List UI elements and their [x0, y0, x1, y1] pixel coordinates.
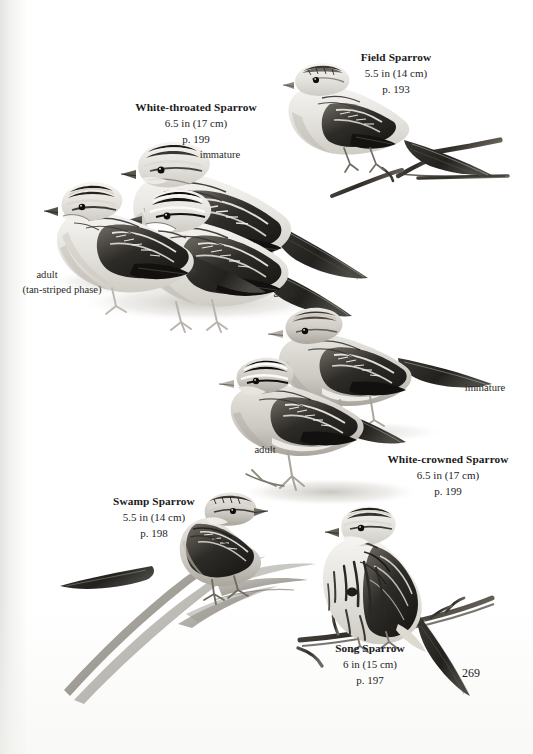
species-page-swamp-sparrow: p. 198 — [89, 526, 219, 542]
annotation-tan-striped-phase: (tan-striped phase) — [0, 283, 124, 297]
annotation-adult-white-throated: adult — [258, 287, 310, 301]
species-page-field-sparrow: p. 193 — [316, 82, 476, 98]
species-page-white-crowned-sparrow: p. 199 — [364, 484, 532, 500]
species-name-white-crowned-sparrow: White-crowned Sparrow — [364, 452, 532, 467]
species-name-white-throated-sparrow: White-throated Sparrow — [86, 100, 306, 115]
annotation-adult-white-crowned: adult — [239, 443, 291, 457]
annotation-immature-white-crowned: immature — [448, 381, 522, 395]
species-name-field-sparrow: Field Sparrow — [316, 50, 476, 65]
annotation-adult-tan-striped: adult — [18, 268, 76, 282]
species-page-white-throated-sparrow: p. 199 — [86, 132, 306, 148]
caption-field-sparrow: Field Sparrow 5.5 in (14 cm) p. 193 — [316, 50, 476, 98]
species-size-field-sparrow: 5.5 in (14 cm) — [316, 65, 476, 82]
annotation-immature-white-throated: immature — [185, 148, 255, 162]
species-name-song-sparrow: Song Sparrow — [305, 641, 435, 656]
species-size-song-sparrow: 6 in (15 cm) — [305, 656, 435, 673]
field-guide-page: Field Sparrow 5.5 in (14 cm) p. 193 Whit… — [0, 0, 533, 754]
species-size-white-throated-sparrow: 6.5 in (17 cm) — [86, 115, 306, 132]
species-size-swamp-sparrow: 5.5 in (14 cm) — [89, 509, 219, 526]
caption-white-crowned-sparrow: White-crowned Sparrow 6.5 in (17 cm) p. … — [364, 452, 532, 500]
caption-white-throated-sparrow: White-throated Sparrow 6.5 in (17 cm) p.… — [86, 100, 306, 148]
caption-song-sparrow: Song Sparrow 6 in (15 cm) p. 197 — [305, 641, 435, 689]
species-name-swamp-sparrow: Swamp Sparrow — [89, 494, 219, 509]
species-size-white-crowned-sparrow: 6.5 in (17 cm) — [364, 467, 532, 484]
page-number: 269 — [462, 666, 480, 681]
caption-swamp-sparrow: Swamp Sparrow 5.5 in (14 cm) p. 198 — [89, 494, 219, 542]
species-page-song-sparrow: p. 197 — [305, 673, 435, 689]
